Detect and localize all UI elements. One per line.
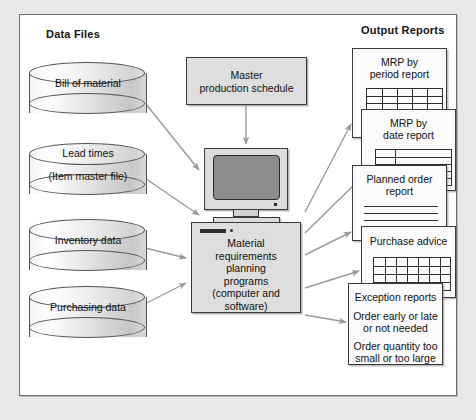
report-title-line-1: Planned order bbox=[353, 173, 446, 185]
mrp-system-diagram: Data Files Output Reports Bill of materi… bbox=[0, 0, 476, 420]
tower-led-icon bbox=[230, 229, 233, 232]
report-title-line-1: Exception reports bbox=[349, 291, 442, 303]
mrp-line-6: software) bbox=[192, 300, 300, 313]
mps-line-2: production schedule bbox=[187, 82, 306, 95]
drive-slot-icon bbox=[200, 229, 226, 233]
data-file-label: Lead times bbox=[29, 147, 147, 159]
mrp-line-4: programs bbox=[192, 275, 300, 288]
power-led-icon bbox=[274, 203, 277, 206]
report-title-line-1: MRP by bbox=[362, 117, 455, 129]
cylinder-bottom bbox=[29, 93, 145, 114]
report-text-line-2: Order early or late bbox=[349, 310, 442, 322]
data-file-label: Bill of material bbox=[29, 77, 147, 89]
report-text-line-3: or not needed bbox=[349, 322, 442, 334]
monitor-screen bbox=[213, 155, 280, 200]
mrp-line-1: Material bbox=[192, 237, 300, 250]
mps-line-1: Master bbox=[187, 69, 306, 82]
mrp-line-5: (computer and bbox=[192, 287, 300, 300]
data-file-label: Inventory data bbox=[29, 234, 147, 246]
master-production-schedule-box[interactable]: Master production schedule bbox=[186, 57, 307, 105]
data-files-header: Data Files bbox=[46, 28, 100, 40]
mrp-line-2: requirements bbox=[192, 250, 300, 263]
report-title-line-2: date report bbox=[362, 129, 455, 141]
report-card-exception-reports[interactable]: Exception reports Order early or late or… bbox=[348, 283, 443, 365]
report-title-line-1: MRP by bbox=[353, 56, 446, 68]
cylinder-bottom bbox=[29, 250, 145, 271]
monitor-case bbox=[204, 148, 288, 210]
monitor-neck bbox=[233, 210, 259, 217]
report-title-line-1: Purchase advice bbox=[362, 235, 455, 247]
computer-monitor-icon bbox=[204, 148, 290, 226]
data-file-label: Purchasing data bbox=[29, 301, 147, 313]
output-reports-header: Output Reports bbox=[361, 24, 444, 36]
mrp-line-3: planning bbox=[192, 262, 300, 275]
report-title-line-2: report bbox=[353, 185, 446, 197]
report-title-line-2: period report bbox=[353, 68, 446, 80]
cylinder-bottom bbox=[29, 317, 145, 338]
report-text-line-5: small or too large bbox=[349, 352, 442, 364]
report-text-line-4: Order quantity too bbox=[349, 340, 442, 352]
data-file-sublabel: (Item master file) bbox=[29, 170, 147, 182]
mrp-programs-box[interactable]: Material requirements planning programs … bbox=[191, 222, 301, 313]
